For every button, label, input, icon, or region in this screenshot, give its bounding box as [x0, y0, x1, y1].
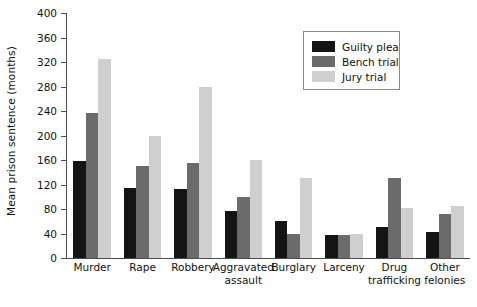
bar[interactable]	[73, 161, 86, 258]
legend-label: Bench trial	[342, 56, 399, 68]
y-axis-tick-label: 160	[37, 154, 57, 166]
bar[interactable]	[149, 136, 162, 259]
bar-group	[67, 13, 117, 258]
y-axis-tick-mark	[61, 160, 66, 161]
y-axis-tick-label: 320	[37, 56, 57, 68]
y-axis-tick-label: 80	[44, 203, 57, 215]
bar[interactable]	[136, 166, 149, 258]
y-axis-tick-mark	[61, 62, 66, 63]
bars-layer	[67, 13, 470, 258]
legend-item[interactable]: Jury trial	[312, 70, 386, 83]
y-axis-tick-label: 40	[44, 228, 57, 240]
y-axis-tick-label: 200	[37, 130, 57, 142]
y-axis-tick-label: 360	[37, 32, 57, 44]
bar[interactable]	[401, 208, 414, 258]
y-axis-tick-label: 280	[37, 81, 57, 93]
y-axis-tick-mark	[61, 185, 66, 186]
y-axis-tick-mark	[61, 111, 66, 112]
bar[interactable]	[300, 178, 313, 258]
bar[interactable]	[388, 178, 401, 258]
bar-group	[218, 13, 268, 258]
legend-swatch	[312, 41, 335, 52]
x-axis-category-label-line: Other	[414, 261, 476, 274]
bar[interactable]	[376, 227, 389, 258]
y-axis-tick-label: 0	[50, 252, 57, 264]
bar[interactable]	[451, 206, 464, 258]
bar[interactable]	[350, 234, 363, 258]
bar[interactable]	[174, 189, 187, 258]
legend-swatch	[312, 71, 335, 82]
bar[interactable]	[250, 160, 263, 258]
y-axis-tick-mark	[61, 234, 66, 235]
legend: Guilty pleaBench trialJury trial	[303, 31, 400, 90]
x-axis-line	[66, 258, 470, 259]
y-axis-tick-label: 120	[37, 179, 57, 191]
legend-swatch	[312, 56, 335, 67]
bar[interactable]	[325, 235, 338, 258]
y-axis-tick-mark	[61, 13, 66, 14]
bar[interactable]	[338, 235, 351, 258]
plot-area: 04080120160200240280320360400	[66, 13, 470, 258]
y-axis-tick-label: 240	[37, 105, 57, 117]
bar[interactable]	[426, 232, 439, 258]
y-axis-title: Mean prison sentence (months)	[0, 0, 22, 262]
legend-label: Jury trial	[342, 71, 386, 83]
bar[interactable]	[225, 211, 238, 258]
y-axis-tick-mark	[61, 136, 66, 137]
legend-label: Guilty plea	[342, 41, 399, 53]
bar[interactable]	[275, 221, 288, 258]
bar-group	[168, 13, 218, 258]
x-axis-category-labels: MurderRapeRobberyAggravatedassaultBurgla…	[67, 261, 470, 307]
bar[interactable]	[237, 197, 250, 258]
legend-item[interactable]: Guilty plea	[312, 40, 399, 53]
bar[interactable]	[439, 214, 452, 258]
legend-item[interactable]: Bench trial	[312, 55, 399, 68]
bar-group	[117, 13, 167, 258]
y-axis-tick-mark	[61, 209, 66, 210]
bar[interactable]	[287, 234, 300, 259]
y-axis-tick-mark	[61, 258, 66, 259]
y-axis-tick-mark	[61, 87, 66, 88]
y-axis-tick-mark	[61, 38, 66, 39]
bar-chart: Mean prison sentence (months) 0408012016…	[0, 0, 477, 307]
bar[interactable]	[98, 59, 111, 258]
y-axis-title-text: Mean prison sentence (months)	[5, 46, 17, 216]
bar[interactable]	[199, 87, 212, 259]
bar[interactable]	[86, 113, 99, 258]
x-axis-category-label-line: assault	[212, 274, 274, 287]
x-axis-category-label-line: felonies	[414, 274, 476, 287]
bar-group	[420, 13, 470, 258]
bar[interactable]	[124, 188, 137, 258]
x-axis-category-label: Otherfelonies	[414, 261, 476, 287]
bar[interactable]	[187, 163, 200, 258]
y-axis-tick-label: 400	[37, 7, 57, 19]
